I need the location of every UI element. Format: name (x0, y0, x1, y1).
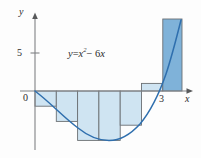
riemann-rectangles (35, 19, 182, 140)
riemann-rect-5 (120, 91, 141, 125)
plot-canvas (0, 0, 201, 158)
origin-label: 0 (23, 93, 28, 103)
riemann-rect-2 (56, 91, 77, 121)
y-axis-arrow-icon (32, 13, 38, 20)
y-tick-label-5: 5 (17, 48, 22, 58)
riemann-sum-figure: y x 5 0 3 y=x2− 6x (0, 0, 201, 158)
x-tick-label-3: 3 (159, 94, 164, 104)
y-axis-label: y (19, 7, 23, 17)
equation-var2: x (100, 48, 105, 59)
riemann-rect-3 (78, 91, 99, 140)
riemann-rect-4 (99, 91, 120, 140)
equation-annotation: y=x2− 6x (68, 47, 105, 59)
equation-minus-six: − 6 (87, 48, 101, 59)
x-axis-label: x (185, 94, 189, 104)
